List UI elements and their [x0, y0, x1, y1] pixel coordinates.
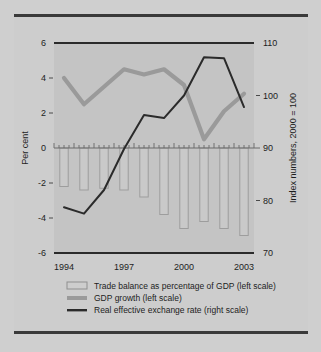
hollow-bar-swatch-icon — [67, 282, 87, 289]
left-axis-title: Per cent — [20, 131, 30, 165]
left-tick-label: -6 — [38, 248, 46, 258]
bottom-rule — [14, 331, 308, 334]
left-tick-label: 0 — [41, 143, 46, 153]
right-tick-label: 100 — [263, 91, 278, 101]
right-tick-label: 70 — [263, 248, 273, 258]
x-tick-label: 1994 — [54, 262, 74, 272]
x-tick-label: 1997 — [114, 262, 134, 272]
right-axis-title: Index numbers, 2000 = 100 — [288, 93, 298, 203]
legend-label-trade-balance: Trade balance as percentage of GDP (left… — [94, 281, 276, 291]
legend-label-gdp-growth: GDP growth (left scale) — [94, 293, 182, 303]
left-tick-label: -4 — [38, 213, 46, 223]
legend-item-reer: Real effective exchange rate (right scal… — [67, 305, 249, 315]
left-tick-label: 6 — [41, 38, 46, 48]
x-tick-label: 2003 — [234, 262, 254, 272]
left-tick-label: 4 — [41, 73, 46, 83]
x-tick-label: 2000 — [174, 262, 194, 272]
right-tick-label: 80 — [263, 196, 273, 206]
economic-indicators-chart: 6420-2-4-6 110100908070 1994199720002003… — [14, 17, 308, 331]
chart-panel: 6420-2-4-6 110100908070 1994199720002003… — [14, 17, 308, 331]
legend-item-trade-balance: Trade balance as percentage of GDP (left… — [67, 281, 276, 291]
left-tick-label: 2 — [41, 108, 46, 118]
right-tick-label: 90 — [263, 143, 273, 153]
right-tick-label: 110 — [263, 38, 277, 48]
legend-label-reer: Real effective exchange rate (right scal… — [94, 305, 249, 315]
thick-gray-line-swatch-icon — [67, 296, 87, 300]
figure-container: 6420-2-4-6 110100908070 1994199720002003… — [0, 0, 321, 352]
thin-dark-line-swatch-icon — [67, 309, 87, 311]
left-tick-label: -2 — [38, 178, 46, 188]
